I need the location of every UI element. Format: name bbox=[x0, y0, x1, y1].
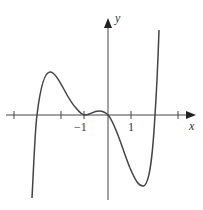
tick-label-1: 1 bbox=[128, 120, 134, 134]
polynomial-graph: y x −1 1 bbox=[0, 0, 203, 210]
x-axis-arrow-icon bbox=[186, 111, 196, 119]
y-axis-label: y bbox=[114, 11, 121, 25]
x-axis-label: x bbox=[188, 119, 195, 133]
y-axis-arrow-icon bbox=[104, 18, 112, 28]
function-curve bbox=[32, 30, 159, 198]
tick-label-neg1: −1 bbox=[74, 120, 87, 134]
